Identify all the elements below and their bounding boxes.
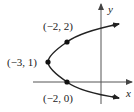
point-label-neg3-1: (−3, 1)	[7, 57, 37, 68]
point-neg3-1	[45, 59, 50, 64]
point-neg2-0	[64, 79, 69, 84]
y-axis-label: y	[108, 4, 113, 15]
parabola-curve	[48, 24, 119, 98]
parabola-diagram: y x (−2, 2) (−3, 1) (−2, 0)	[0, 0, 134, 112]
point-label-neg2-2: (−2, 2)	[43, 21, 73, 32]
point-label-neg2-0: (−2, 0)	[43, 93, 73, 104]
x-axis-label: x	[126, 88, 131, 99]
point-neg2-2	[64, 39, 69, 44]
